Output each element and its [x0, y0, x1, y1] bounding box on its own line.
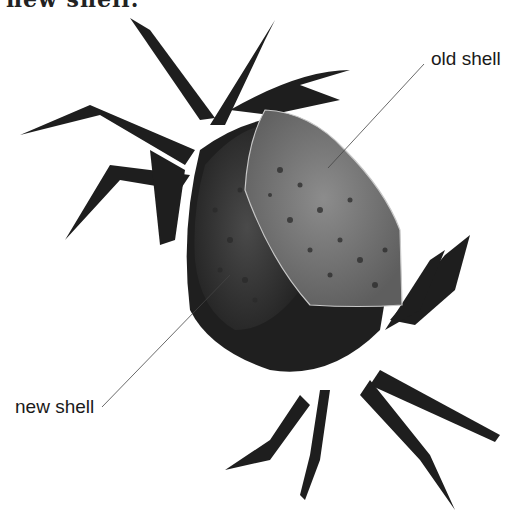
old-shell-pointer-line: [328, 64, 424, 168]
new-shell-pointer-line: [102, 275, 230, 407]
label-old-shell: old shell: [431, 48, 501, 70]
label-new-shell: new shell: [15, 396, 94, 418]
crab-illustration: [0, 0, 518, 523]
photo-figure: new shell.: [0, 0, 518, 523]
